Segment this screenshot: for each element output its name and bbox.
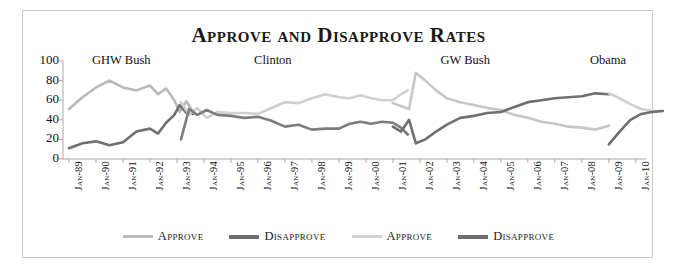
series-line-democrat-presidents-disapprove	[181, 109, 408, 139]
x-tick-label: Jan-02	[424, 161, 435, 190]
series-line-obama-approve	[609, 93, 663, 111]
x-tick-label: Jan-98	[316, 161, 327, 190]
x-tick-label: Jan-94	[208, 161, 219, 190]
x-tick-label: Jan-04	[478, 161, 489, 190]
legend-label: Approve	[387, 229, 433, 244]
legend-label: Approve	[158, 229, 204, 244]
chart-legend: ApproveDisapproveApproveDisapprove	[23, 229, 654, 244]
plot-svg	[63, 61, 646, 159]
x-tick-label: Jan-08	[586, 161, 597, 190]
y-tick-label: 40	[29, 114, 59, 124]
y-tick-label: 0	[29, 153, 59, 163]
legend-label: Disapprove	[264, 229, 325, 244]
era-label: Clinton	[254, 53, 292, 68]
legend-swatch-icon	[123, 235, 153, 238]
x-tick-label: Jan-91	[127, 161, 138, 190]
y-tick-label: 80	[29, 75, 59, 85]
series-line-obama-disapprove	[609, 111, 663, 144]
x-tick-label: Jan-95	[235, 161, 246, 190]
legend-swatch-icon	[458, 235, 488, 239]
y-tick-label: 60	[29, 94, 59, 104]
era-label: Obama	[590, 53, 626, 68]
x-tick-label: Jan-01	[397, 161, 408, 190]
x-tick-label: Jan-93	[181, 161, 192, 190]
x-tick-label: Jan-07	[559, 161, 570, 190]
plot-area	[63, 61, 646, 159]
legend-label: Disapprove	[493, 229, 554, 244]
y-tick-label: 100	[29, 55, 59, 65]
era-label: GHW Bush	[92, 53, 150, 68]
x-tick-label: Jan-92	[154, 161, 165, 190]
series-line-gw-bush-disapprove	[393, 93, 609, 143]
chart-frame: Approve and Disapprove Rates 02040608010…	[22, 10, 653, 258]
x-tick-label: Jan-05	[505, 161, 516, 190]
era-label: GW Bush	[441, 53, 490, 68]
legend-item: Disapprove	[458, 229, 554, 244]
series-line-republican-presidents-disapprove	[69, 105, 193, 148]
x-tick-label: Jan-09	[613, 161, 624, 190]
x-tick-label: Jan-00	[370, 161, 381, 190]
x-tick-label: Jan-89	[73, 161, 84, 190]
legend-item: Approve	[123, 229, 204, 244]
x-tick-label: Jan-03	[451, 161, 462, 190]
chart-title: Approve and Disapprove Rates	[23, 23, 654, 48]
x-axis-labels: Jan-89Jan-90Jan-91Jan-92Jan-93Jan-94Jan-…	[63, 161, 646, 221]
x-tick-label: Jan-06	[532, 161, 543, 190]
series-line-gw-bush-approve	[393, 73, 609, 130]
series-line-republican-presidents-approve	[69, 81, 193, 112]
legend-item: Approve	[352, 229, 433, 244]
legend-swatch-icon	[229, 235, 259, 239]
x-tick-label: Jan-97	[289, 161, 300, 190]
legend-swatch-icon	[352, 235, 382, 238]
x-tick-label: Jan-96	[262, 161, 273, 190]
x-tick-label: Jan-90	[100, 161, 111, 190]
legend-item: Disapprove	[229, 229, 325, 244]
y-axis-labels: 020406080100	[23, 61, 59, 159]
x-tick-label: Jan-10	[640, 161, 651, 190]
x-tick-label: Jan-99	[343, 161, 354, 190]
y-tick-label: 20	[29, 133, 59, 143]
